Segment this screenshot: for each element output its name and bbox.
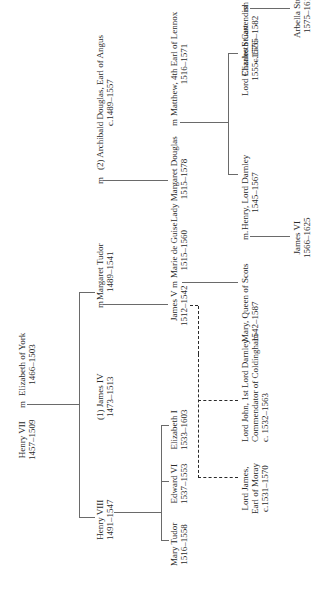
sibling-bar xyxy=(161,425,162,541)
person-james-vi: James VI 1566–1625 xyxy=(292,218,312,259)
person-dates: 1533–1603 xyxy=(179,410,189,451)
person-dates: 1537–1553 xyxy=(179,464,189,505)
person-name: Margaret Tudor xyxy=(95,243,105,300)
person-edward-vi: Edward VI 1537–1553 xyxy=(169,464,189,505)
person-name: Elizabeth of York xyxy=(17,333,27,396)
person-name: Mary, Queen of Scots xyxy=(240,264,250,342)
person-dates: 1466–1503 xyxy=(27,333,37,396)
person-name: (2) Archibald Douglas, Earl of Angus xyxy=(95,35,105,170)
connector-line xyxy=(103,180,168,181)
person-lady-margaret-douglas: Lady Margaret Douglas 1515–1578 xyxy=(169,136,189,222)
person-name: Henry, Lord Darnley xyxy=(240,155,250,230)
person-dates: 1575–1615 xyxy=(302,0,312,38)
connector-line xyxy=(250,236,290,237)
person-dates: c.1555–1582 xyxy=(250,2,260,76)
person-name: Lord James, xyxy=(240,463,250,514)
person-title: Earl of Moray xyxy=(250,463,260,514)
person-name: Mary Tudor xyxy=(169,523,179,566)
person-dates: c. 1532–1563 xyxy=(260,334,270,442)
person-arbella-stuart: Arbella Stuart 1575–1615 xyxy=(292,0,312,38)
person-henry-darnley: Henry, Lord Darnley 1545–1567 xyxy=(240,155,260,230)
marriage-label: m xyxy=(169,281,179,288)
person-dates: 1473–1513 xyxy=(105,374,115,421)
person-james-v: James V 1512–1542 xyxy=(169,286,189,327)
connector-line xyxy=(228,174,238,175)
person-name: James VI xyxy=(292,221,302,255)
person-archibald-douglas: (2) Archibald Douglas, Earl of Angus c.1… xyxy=(95,35,115,170)
person-dates: 1566–1625 xyxy=(302,218,312,259)
connector-line xyxy=(161,425,169,426)
connector-line xyxy=(182,282,238,283)
person-dates: 1512–1542 xyxy=(179,286,189,327)
marriage-marker: m xyxy=(17,401,27,408)
person-matthew-lennox: Matthew, 4th Earl of Lennox 1516–1571 xyxy=(169,12,189,116)
person-dates: 1516–1558 xyxy=(179,523,189,566)
connector-line xyxy=(250,8,290,9)
person-dates: 1457–1509 xyxy=(27,420,37,461)
person-name: Henry VII xyxy=(17,421,27,458)
person-dates: c.1531–1570 xyxy=(260,463,270,514)
sibling-bar xyxy=(79,292,80,518)
person-dates: 1515–1560 xyxy=(179,223,189,278)
marriage-marker: m. xyxy=(240,231,250,240)
person-lord-john: Lord John, 1st Lord Darnley Commendator … xyxy=(240,334,270,442)
person-dates: c.1489–1557 xyxy=(105,35,115,170)
person-dates: 1491–1547 xyxy=(105,500,115,541)
person-name: Elizabeth Cavendish xyxy=(240,2,250,76)
connector-line xyxy=(161,540,169,541)
dashed-connector xyxy=(198,306,199,354)
person-dates: 1545–1567 xyxy=(250,155,260,230)
person-name: Matthew, 4th Earl of Lennox xyxy=(169,12,179,116)
person-name: Marie de Guise xyxy=(169,223,179,278)
person-dates: 1516–1571 xyxy=(179,12,189,116)
connector-line xyxy=(79,292,95,293)
person-mary-queen-of-scots: Mary, Queen of Scots 1542–1587 xyxy=(240,264,260,342)
marriage-marker: m xyxy=(169,119,179,126)
connector-line xyxy=(161,481,169,482)
person-marie-de-guise: Marie de Guise 1515–1560 xyxy=(169,223,189,278)
person-lord-james: Lord James, Earl of Moray c.1531–1570 xyxy=(240,463,270,514)
marriage-marker: m xyxy=(169,281,179,288)
person-henry-viii: Henry VIII 1491–1547 xyxy=(95,500,115,541)
family-tree-diagram: Henry VII 1457–1509 m Elizabeth of York … xyxy=(0,0,323,592)
marriage-label: m. xyxy=(240,231,250,240)
person-margaret-tudor: Margaret Tudor 1489–1541 xyxy=(95,243,115,300)
connector-line xyxy=(103,304,168,305)
person-mary-tudor: Mary Tudor 1516–1558 xyxy=(169,523,189,566)
person-name: Lady Margaret Douglas xyxy=(169,136,179,222)
person-title: Commendator of Coldingham xyxy=(250,334,260,442)
sibling-bar xyxy=(228,53,229,175)
person-name: (1) James IV xyxy=(95,374,105,421)
person-dates: 1542–1587 xyxy=(250,264,260,342)
person-name: Elizabeth I xyxy=(169,410,179,449)
person-dates: 1489–1541 xyxy=(105,243,115,300)
person-name: Edward VI xyxy=(169,464,179,504)
marriage-label: m xyxy=(17,401,27,408)
person-dates: 1515–1578 xyxy=(179,136,189,222)
marriage-label: m xyxy=(169,119,179,126)
dashed-connector xyxy=(198,400,238,401)
person-elizabeth-cavendish: Elizabeth Cavendishc.1555–1582 xyxy=(240,2,260,76)
connector-line xyxy=(114,512,161,513)
connector-line xyxy=(180,122,228,123)
person-name: James V xyxy=(169,290,179,321)
person-henry-vii: Henry VII 1457–1509 xyxy=(17,420,37,461)
dashed-connector xyxy=(190,305,198,306)
person-james-iv: (1) James IV 1473–1513 xyxy=(95,374,115,421)
dashed-connector xyxy=(198,477,238,478)
person-elizabeth-of-york: Elizabeth of York 1466–1503 xyxy=(17,333,37,396)
person-name: Henry VIII xyxy=(95,500,105,540)
person-name: Lord John, 1st Lord Darnley xyxy=(240,334,250,442)
connector-line xyxy=(27,404,79,405)
connector-line xyxy=(79,517,95,518)
dashed-connector xyxy=(198,354,199,478)
person-name: Arbella Stuart xyxy=(292,0,302,38)
connector-line xyxy=(228,53,238,54)
person-elizabeth-i: Elizabeth I 1533–1603 xyxy=(169,410,189,451)
